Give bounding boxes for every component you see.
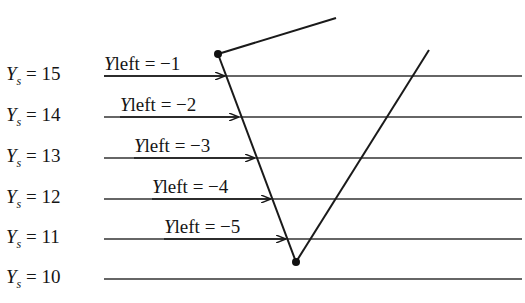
yleft-label: Yleft = −4 <box>152 177 228 196</box>
ys-label: Ys = 15 <box>6 64 60 83</box>
polygon-edges <box>214 18 429 266</box>
ys-subscript: s <box>17 237 22 251</box>
yleft-label: Yleft = −1 <box>104 54 180 73</box>
ys-value: = 11 <box>21 226 60 247</box>
yleft-variable: Y <box>164 216 175 237</box>
ys-subscript: s <box>17 115 22 129</box>
scanline-polygon-diagram <box>0 0 525 303</box>
yleft-label: Yleft = −2 <box>120 95 196 114</box>
ys-value: = 15 <box>21 63 60 84</box>
ys-value: = 13 <box>21 145 60 166</box>
ys-variable: Y <box>6 145 17 166</box>
ys-label: Ys = 11 <box>6 227 60 246</box>
ys-value: = 14 <box>21 104 60 125</box>
ys-label: Ys = 10 <box>6 267 60 286</box>
ys-label: Ys = 13 <box>6 146 60 165</box>
ys-variable: Y <box>6 226 17 247</box>
yleft-value: left = −5 <box>175 216 241 237</box>
top-vertex-dot <box>214 50 222 58</box>
ys-label: Ys = 12 <box>6 187 60 206</box>
ys-variable: Y <box>6 186 17 207</box>
yleft-label: Yleft = −5 <box>164 217 240 236</box>
yleft-value: left = −4 <box>163 176 229 197</box>
yleft-variable: Y <box>134 135 145 156</box>
yleft-value: left = −3 <box>145 135 211 156</box>
ys-variable: Y <box>6 104 17 125</box>
ys-subscript: s <box>17 197 22 211</box>
ys-subscript: s <box>17 156 22 170</box>
ys-value: = 12 <box>21 186 60 207</box>
yleft-variable: Y <box>120 94 131 115</box>
bottom-vertex-dot <box>292 258 300 266</box>
yleft-value: left = −1 <box>115 53 181 74</box>
ys-label: Ys = 14 <box>6 105 60 124</box>
polygon-upper-edge <box>218 18 336 54</box>
yleft-variable: Y <box>104 53 115 74</box>
polygon-right-edge <box>296 50 429 262</box>
yleft-label: Yleft = −3 <box>134 136 210 155</box>
ys-variable: Y <box>6 63 17 84</box>
ys-subscript: s <box>17 277 22 291</box>
ys-variable: Y <box>6 266 17 287</box>
yleft-value: left = −2 <box>131 94 197 115</box>
ys-value: = 10 <box>21 266 60 287</box>
ys-subscript: s <box>17 74 22 88</box>
yleft-variable: Y <box>152 176 163 197</box>
